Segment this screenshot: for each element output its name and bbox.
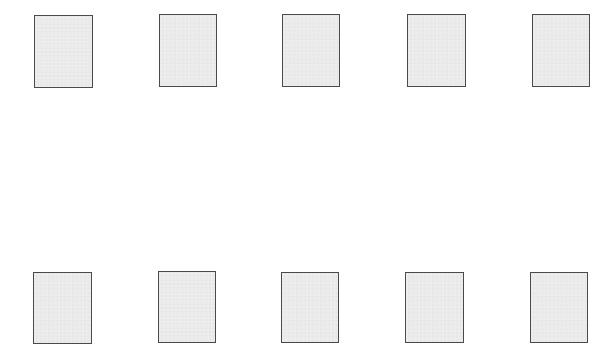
card-top-3 bbox=[282, 14, 340, 87]
card-bottom-3 bbox=[281, 272, 339, 343]
card-top-4 bbox=[407, 14, 466, 87]
card-top-1 bbox=[34, 15, 93, 88]
card-bottom-4 bbox=[405, 272, 464, 343]
card-top-5 bbox=[532, 14, 590, 87]
card-bottom-1 bbox=[33, 272, 92, 344]
card-bottom-5 bbox=[530, 272, 588, 343]
card-bottom-2 bbox=[158, 271, 216, 343]
card-top-2 bbox=[159, 14, 217, 87]
